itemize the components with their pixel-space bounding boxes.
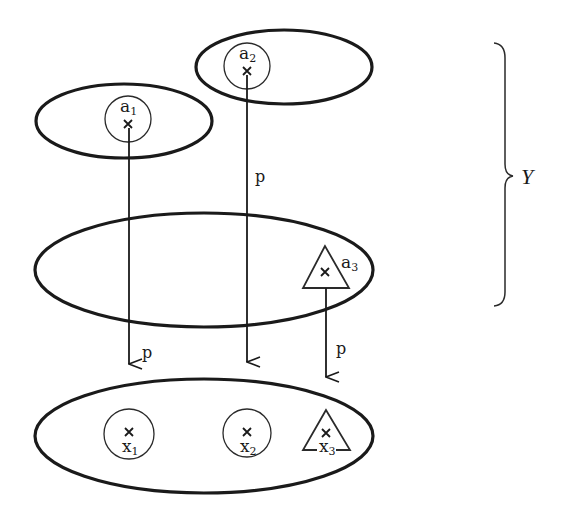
fibre-ellipse-a2 <box>196 30 372 104</box>
label-x1: x1 <box>122 436 139 458</box>
fibre-diagram: a1 a2 a3 p p p x1 x2 x3 Y <box>0 0 563 509</box>
point-x1: x1 <box>104 409 154 459</box>
label-a1: a1 <box>120 96 137 118</box>
map-label-p: p <box>336 339 346 358</box>
map-label-p: p <box>142 343 152 362</box>
cross-icon <box>243 428 251 436</box>
cross-icon <box>125 428 133 436</box>
label-x2: x2 <box>240 436 257 458</box>
map-label-p: p <box>255 167 265 186</box>
point-x3: x3 <box>303 410 350 458</box>
label-a2: a2 <box>239 43 256 65</box>
brace-label-y: Y <box>521 164 536 189</box>
point-a3: a3 <box>303 246 358 288</box>
cross-icon <box>124 120 132 128</box>
point-x2: x2 <box>223 409 271 458</box>
label-x3: x3 <box>319 436 336 458</box>
curly-brace-icon <box>494 43 513 306</box>
cross-icon <box>243 67 251 75</box>
cross-icon <box>321 268 329 276</box>
label-a3: a3 <box>341 252 358 274</box>
point-a1: a1 <box>105 96 151 142</box>
